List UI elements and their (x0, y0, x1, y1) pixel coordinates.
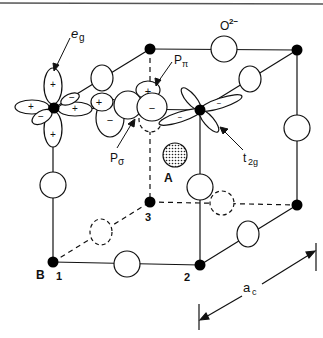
p-pi-label: P (174, 53, 182, 67)
p-sigma-arrowhead (128, 119, 135, 127)
oxygen-atom-top-right-diag (239, 66, 261, 92)
t2g-label-sub: 2g (248, 157, 258, 167)
oxygen-atom-top-left-diag (91, 65, 113, 91)
oxygen-atom-bottom-right-diag (237, 221, 259, 247)
t2g-label: t (243, 151, 247, 165)
vertex-3-label: 3 (145, 211, 151, 223)
oxygen-atom-right-vertical (284, 115, 310, 141)
sign-plus: + (72, 103, 78, 114)
oxygen-atom-front-left-vertical (40, 172, 66, 198)
sign-minus: − (178, 113, 183, 122)
sign-minus: − (38, 111, 44, 122)
p-pi-label-sub: π (182, 59, 188, 69)
vertex-atom-1 (48, 257, 59, 268)
b-site-atom-t2g (195, 105, 206, 116)
vertex-1-label: 1 (56, 270, 62, 282)
lattice-param-label-sub: c (252, 287, 257, 297)
b-site-atom-eg (49, 103, 60, 114)
sign-minus: − (149, 102, 155, 114)
sign-minus: − (217, 99, 222, 108)
oxygen-label-sup: 2− (229, 17, 238, 26)
lattice-param-label: a (243, 280, 251, 295)
vertex-2-label: 2 (184, 271, 190, 283)
oxygen-atom-front-right-vertical (187, 174, 213, 200)
sign-plus: + (28, 101, 34, 112)
sign-plus: + (96, 96, 102, 108)
vertex-atom-2 (195, 260, 206, 271)
a-site-atom (163, 143, 187, 167)
site-a-label: A (164, 171, 173, 185)
ac-arrowhead-left (200, 313, 209, 320)
sign-plus: + (145, 85, 151, 97)
site-b-label: B (36, 268, 45, 282)
vertex-atom-top-back-right (292, 45, 303, 56)
oxygen-atom-hidden-bottom-left (90, 219, 112, 245)
sign-minus: − (107, 114, 113, 126)
ac-arrowhead-right (306, 251, 315, 258)
vertex-atom-top-back-left (145, 44, 156, 55)
t2g-leader-line (224, 131, 243, 150)
perovskite-diagram: A + − + − + + (0, 0, 323, 338)
sign-plus: + (50, 79, 56, 90)
p-pi-leader-line (158, 62, 172, 82)
eg-label: e (71, 26, 78, 41)
ac-dimension-line-upper (262, 253, 312, 284)
vertex-atom-bottom-back-right (292, 200, 303, 211)
t2g-arrowhead (220, 127, 228, 134)
oxygen-atom-top-back (211, 36, 237, 62)
oxygen-atom-hidden-bottom-back (210, 191, 234, 215)
oxygen-label: O (220, 19, 229, 33)
oxygen-atom-bottom-front (114, 251, 140, 277)
sign-plus: + (50, 129, 56, 140)
top-border (0, 3, 323, 4)
ac-dimension-line-lower (204, 296, 242, 318)
eg-label-sub: g (79, 32, 85, 43)
sign-minus: − (69, 92, 75, 103)
eg-leader-line (56, 38, 70, 67)
vertex-atom-3 (145, 197, 156, 208)
p-sigma-label-sub: σ (118, 156, 125, 167)
p-sigma-label: P (110, 151, 118, 165)
